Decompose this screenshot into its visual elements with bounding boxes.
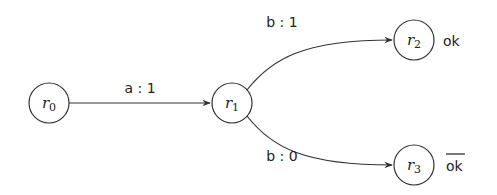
automaton-diagram: a : 1 b : 1 b : 0 r0 r1 r2 ok r3 ok <box>0 0 497 195</box>
edge-arrow <box>247 40 392 90</box>
transition-r1-r2: b : 1 <box>247 14 392 90</box>
state-r1: r1 <box>212 83 252 123</box>
transition-r0-r1: a : 1 <box>69 80 210 103</box>
transition-label: b : 0 <box>266 148 297 164</box>
state-output-not-ok: ok <box>446 158 464 174</box>
state-output-ok: ok <box>443 33 461 49</box>
state-r3: r3 ok <box>394 145 465 185</box>
state-r0: r0 <box>29 83 69 123</box>
transition-label: b : 1 <box>266 14 297 30</box>
state-r2: r2 ok <box>394 20 461 60</box>
transition-label: a : 1 <box>124 80 155 96</box>
transition-r1-r3: b : 0 <box>247 116 392 165</box>
